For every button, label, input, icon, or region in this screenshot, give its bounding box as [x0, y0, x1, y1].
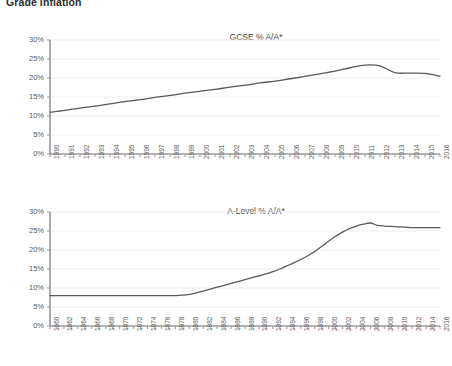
x-axis-label: 2004: [263, 145, 270, 159]
y-axis-label: 0%: [14, 321, 44, 330]
x-axis-label: 2013: [398, 145, 405, 159]
x-axis-label: 2016: [443, 317, 450, 331]
y-axis-label: 5%: [14, 130, 44, 139]
x-axis-label: 2002: [345, 317, 352, 331]
x-axis-label: 2008: [323, 145, 330, 159]
x-axis-label: 2004: [359, 317, 366, 331]
y-axis-label: 30%: [14, 207, 44, 216]
x-axis-label: 1972: [136, 317, 143, 331]
x-axis-label: 1994: [113, 145, 120, 159]
x-axis-label: 2008: [387, 317, 394, 331]
x-axis-label: 2009: [338, 145, 345, 159]
x-axis-label: 1982: [206, 317, 213, 331]
chart-gcse: GCSE % A/A* 0%5%10%15%20%25%30%199019911…: [0, 14, 452, 194]
x-axis-label: 1994: [289, 317, 296, 331]
y-axis-label: 15%: [14, 92, 44, 101]
x-axis-label: 1999: [188, 145, 195, 159]
x-axis-label: 2006: [373, 317, 380, 331]
x-axis-label: 1996: [303, 317, 310, 331]
x-axis-label: 2003: [248, 145, 255, 159]
x-axis-label: 1968: [108, 317, 115, 331]
x-axis-label: 1986: [234, 317, 241, 331]
y-axis-label: 5%: [14, 302, 44, 311]
chart-alevel-plot-area: [0, 190, 452, 366]
x-axis-label: 2010: [401, 317, 408, 331]
y-axis-label: 30%: [14, 35, 44, 44]
x-axis-label: 1992: [275, 317, 282, 331]
x-axis-label: 2014: [413, 145, 420, 159]
x-axis-label: 1991: [68, 145, 75, 159]
y-axis-label: 25%: [14, 226, 44, 235]
x-axis-label: 1978: [178, 317, 185, 331]
x-axis-label: 2016: [443, 145, 450, 159]
x-axis-label: 1988: [248, 317, 255, 331]
page-title: Grade inflation: [6, 0, 82, 8]
x-axis-label: 2014: [429, 317, 436, 331]
x-axis-label: 2010: [353, 145, 360, 159]
x-axis-label: 2000: [331, 317, 338, 331]
x-axis-label: 1984: [220, 317, 227, 331]
data-series-line: [50, 65, 440, 112]
y-axis-label: 10%: [14, 283, 44, 292]
x-axis-label: 1990: [53, 145, 60, 159]
x-axis-label: 2007: [308, 145, 315, 159]
x-axis-label: 1996: [143, 145, 150, 159]
x-axis-label: 2012: [383, 145, 390, 159]
x-axis-label: 1998: [317, 317, 324, 331]
y-axis-label: 20%: [14, 73, 44, 82]
chart-alevel: A-Level % A/A* 0%5%10%15%20%25%30%196019…: [0, 190, 452, 366]
x-axis-label: 1990: [261, 317, 268, 331]
y-axis-label: 25%: [14, 54, 44, 63]
x-axis-label: 1998: [173, 145, 180, 159]
x-axis-label: 1970: [122, 317, 129, 331]
x-axis-label: 2002: [233, 145, 240, 159]
x-axis-label: 1992: [83, 145, 90, 159]
x-axis-label: 2000: [203, 145, 210, 159]
x-axis-label: 2005: [278, 145, 285, 159]
x-axis-label: 2011: [368, 145, 375, 159]
x-axis-label: 1962: [66, 317, 73, 331]
x-axis-label: 2001: [218, 145, 225, 159]
y-axis-label: 0%: [14, 149, 44, 158]
chart-gcse-plot-area: [0, 14, 452, 194]
y-axis-label: 20%: [14, 245, 44, 254]
x-axis-label: 1964: [80, 317, 87, 331]
x-axis-label: 1997: [158, 145, 165, 159]
x-axis-label: 2015: [428, 145, 435, 159]
y-axis-label: 10%: [14, 111, 44, 120]
x-axis-label: 1995: [128, 145, 135, 159]
data-series-line: [50, 223, 440, 296]
x-axis-label: 1980: [192, 317, 199, 331]
x-axis-label: 1974: [150, 317, 157, 331]
x-axis-label: 2012: [415, 317, 422, 331]
x-axis-label: 1966: [94, 317, 101, 331]
x-axis-label: 1976: [164, 317, 171, 331]
y-axis-label: 15%: [14, 264, 44, 273]
x-axis-label: 1993: [98, 145, 105, 159]
x-axis-label: 1960: [53, 317, 60, 331]
x-axis-label: 2006: [293, 145, 300, 159]
